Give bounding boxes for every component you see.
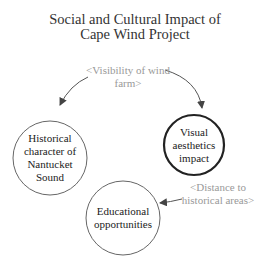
node-historical: Historical character of Nantucket Sound (18, 126, 82, 190)
diagram-title: Social and Cultural Impact of Cape Wind … (40, 12, 230, 42)
edge-label-distance: <Distance to historical areas> (178, 181, 258, 207)
node-visual: Visual aesthetics impact (166, 117, 222, 173)
edge-label-visibility: <Visibility of wind farm> (78, 64, 178, 90)
node-educational: Educational opportunities (91, 186, 155, 250)
